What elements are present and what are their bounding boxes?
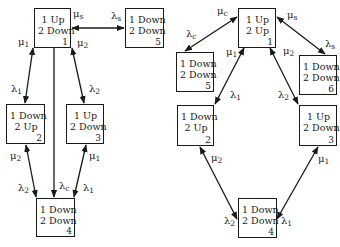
- rate-label: μ2: [10, 150, 21, 164]
- rate-label: λ2: [89, 83, 100, 97]
- rate-label: λs: [111, 10, 121, 24]
- rate-label: μ2: [283, 45, 294, 59]
- state-line2: 2 Down: [180, 69, 211, 80]
- state-line1: 1 Down: [181, 111, 211, 122]
- state-line1: 1 Up: [242, 14, 273, 25]
- state-line1: 1 Up: [303, 111, 334, 122]
- state-line1: 1 Down: [180, 58, 211, 69]
- rate-label: λ1: [83, 182, 94, 196]
- rate-label: μ2: [77, 37, 88, 51]
- rate-label: λ1: [11, 83, 22, 97]
- state-number: 5: [205, 81, 211, 91]
- rate-label: μc: [217, 5, 228, 19]
- state-number: 6: [328, 84, 334, 94]
- arrow-r3-r4: [277, 147, 318, 219]
- rate-label: μ1: [226, 46, 237, 60]
- arrow-l1-l2: [25, 48, 33, 103]
- state-number: 3: [95, 133, 101, 143]
- state-line2: 2 Down: [40, 215, 72, 226]
- state-box-right-6: 1 Down 2 Down 6: [299, 55, 337, 95]
- state-line1: 1 Up: [38, 14, 68, 25]
- rate-label: λs: [325, 38, 335, 52]
- rate-label: μ1: [18, 36, 29, 50]
- rate-label: λ2: [18, 182, 29, 196]
- state-number: 5: [155, 37, 161, 47]
- state-line2: 2 Down: [303, 122, 334, 133]
- state-line2: 2 Up: [181, 122, 211, 133]
- state-line2: 2 Down: [38, 25, 68, 36]
- rate-label: λ1: [230, 89, 241, 103]
- state-box-left-5: 1 Down 2 Down 5: [125, 8, 164, 48]
- state-line1: 1 Up: [70, 110, 101, 121]
- state-line1: 1 Down: [10, 110, 42, 121]
- state-number: 1: [62, 37, 68, 47]
- state-line2: 2 Down: [70, 121, 101, 132]
- state-line1: 1 Down: [40, 204, 72, 215]
- state-box-right-4: 1 Down 2 Down 4: [238, 198, 277, 238]
- rate-label: μs: [73, 8, 83, 22]
- rate-label: λ1: [281, 215, 292, 229]
- state-number: 1: [267, 37, 273, 47]
- rate-label: μ1: [318, 153, 329, 167]
- arrow-l1-l3: [72, 48, 84, 103]
- rate-label: λ2: [224, 215, 235, 229]
- state-box-left-1: 1 Up 2 Down 1: [34, 8, 71, 48]
- state-line2: 2 Down: [129, 25, 161, 36]
- state-number: 3: [328, 135, 334, 145]
- state-number: 4: [268, 227, 274, 237]
- rate-label: λc: [59, 180, 70, 194]
- state-number: 2: [36, 133, 42, 143]
- state-box-right-2: 1 Down 2 Up 2: [177, 105, 214, 146]
- state-line2: 2 Down: [242, 215, 274, 226]
- state-line1: 1 Down: [303, 61, 334, 72]
- state-box-right-3: 1 Up 2 Down 3: [299, 105, 337, 146]
- rate-label: μ1: [89, 150, 100, 164]
- state-box-right-1: 1 Up 2 Up 1: [238, 8, 276, 48]
- state-box-left-2: 1 Down 2 Up 2: [6, 104, 45, 144]
- state-box-right-5: 1 Down 2 Down 5: [176, 52, 214, 92]
- state-line1: 1 Down: [129, 14, 161, 25]
- rate-label: λc: [186, 28, 197, 42]
- rate-label: μ2: [211, 152, 222, 166]
- state-box-left-4: 1 Down 2 Down 4: [36, 198, 75, 237]
- state-line1: 1 Down: [242, 204, 274, 215]
- state-line2: 2 Down: [303, 72, 334, 83]
- rate-label: μs: [287, 9, 297, 23]
- rate-label: λ2: [278, 89, 289, 103]
- state-box-left-3: 1 Up 2 Down 3: [66, 104, 104, 144]
- state-number: 2: [205, 135, 211, 145]
- state-number: 4: [66, 226, 72, 236]
- state-line2: 2 Up: [242, 25, 273, 36]
- state-line2: 2 Up: [10, 121, 42, 132]
